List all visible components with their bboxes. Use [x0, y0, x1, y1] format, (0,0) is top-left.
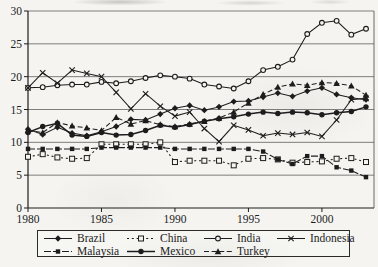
- legend-item-china: China: [126, 232, 187, 245]
- legend-item-mexico: Mexico: [126, 245, 195, 258]
- mexico-legend-marker-icon: [126, 246, 156, 257]
- y-tick-label: 25: [11, 38, 23, 50]
- x-tick-label: 1985: [90, 213, 113, 225]
- y-axis-labels: 051015202530: [11, 5, 29, 214]
- x-tick-label: 1995: [237, 213, 260, 225]
- legend-label: Brazil: [77, 232, 105, 244]
- x-tick-label: 2000: [310, 213, 333, 225]
- legend-label: Indonesia: [310, 232, 355, 244]
- legend-label: Turkey: [237, 245, 270, 257]
- gridlines: [28, 11, 374, 175]
- line-chart-svg: 05101520253019801985199019952000: [0, 0, 378, 230]
- legend-item-india: India: [203, 232, 261, 245]
- y-tick-label: 5: [16, 169, 22, 181]
- y-tick-label: 20: [11, 71, 23, 83]
- x-axis-labels: 19801985199019952000: [17, 208, 334, 225]
- series-line-indonesia: [25, 67, 368, 144]
- legend: BrazilChinaIndiaIndonesiaMalaysiaMexicoT…: [37, 230, 350, 257]
- series-line-india: [26, 18, 369, 90]
- series-line-brazil: [25, 85, 369, 139]
- series-line-malaysia: [26, 145, 368, 179]
- y-tick-label: 15: [11, 104, 23, 116]
- y-tick-label: 30: [11, 5, 23, 17]
- china-legend-marker-icon: [126, 233, 156, 244]
- turkey-legend-marker-icon: [203, 246, 233, 257]
- legend-label: Malaysia: [77, 245, 119, 257]
- x-tick-label: 1990: [163, 213, 186, 225]
- legend-label: Mexico: [160, 245, 195, 257]
- legend-label: India: [237, 232, 261, 244]
- legend-item-malaysia: Malaysia: [43, 245, 119, 258]
- legend-item-indonesia: Indonesia: [276, 232, 355, 245]
- india-legend-marker-icon: [203, 233, 233, 244]
- line-chart: 05101520253019801985199019952000 BrazilC…: [0, 0, 378, 267]
- brazil-legend-marker-icon: [43, 233, 73, 244]
- legend-item-turkey: Turkey: [203, 245, 270, 258]
- legend-label: China: [160, 232, 187, 244]
- y-tick-label: 10: [11, 136, 23, 148]
- x-tick-label: 1980: [17, 213, 40, 225]
- legend-item-brazil: Brazil: [43, 232, 105, 245]
- series-line-turkey: [25, 79, 370, 135]
- indonesia-legend-marker-icon: [276, 233, 306, 244]
- series-line-china: [26, 140, 369, 168]
- malaysia-legend-marker-icon: [43, 246, 73, 257]
